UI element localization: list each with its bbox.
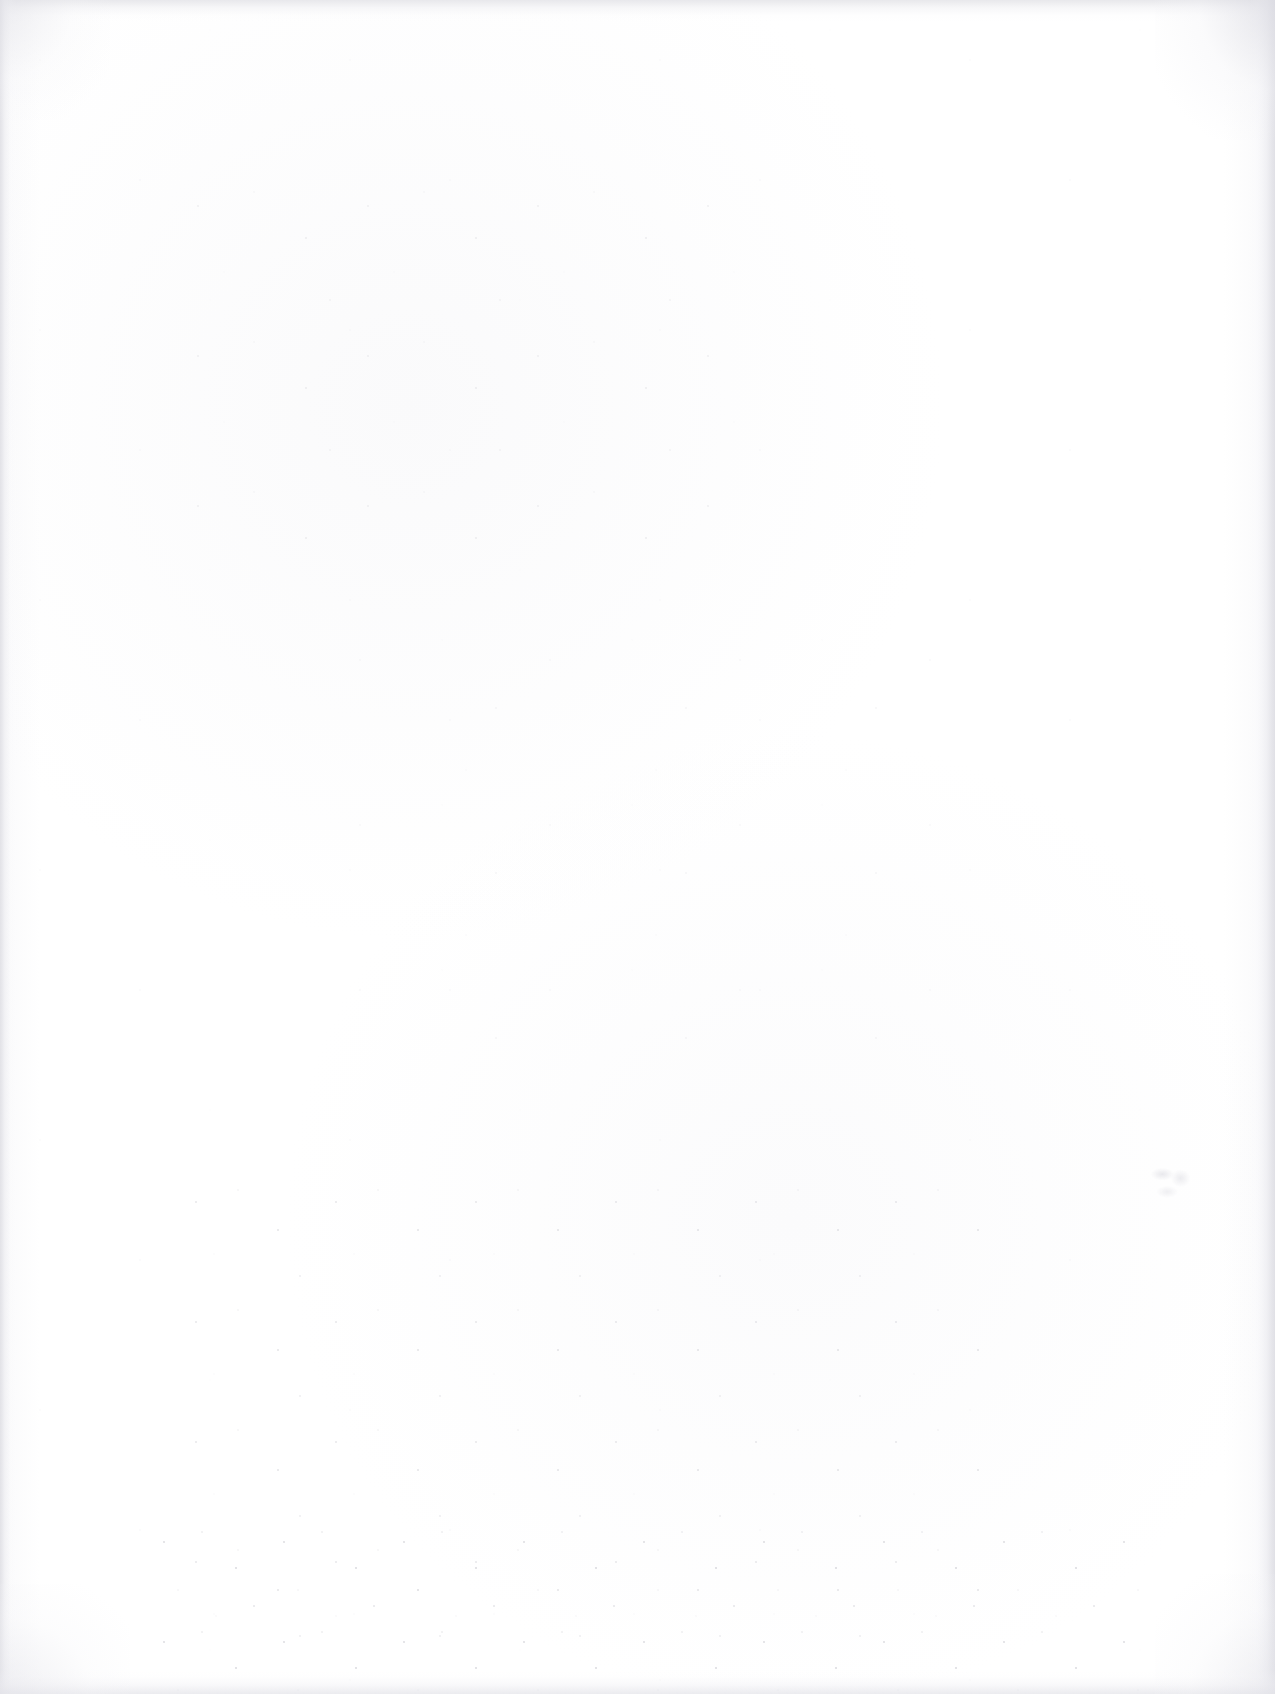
scanned-page: Blank scanned paper page with no printed… (0, 0, 1275, 1694)
paper-surface (0, 0, 1275, 1694)
